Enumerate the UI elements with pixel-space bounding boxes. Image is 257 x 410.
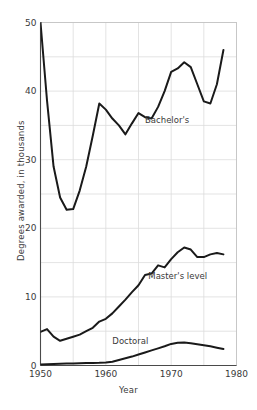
- x-tick-label: 1950: [29, 369, 52, 379]
- degrees-awarded-line-chart: 010203040501950196019701980 Bachelor'sMa…: [0, 0, 257, 410]
- y-tick-label: 30: [25, 155, 37, 165]
- series-lines: [41, 23, 224, 365]
- series-label-bachelor-s: Bachelor's: [145, 115, 190, 125]
- x-tick-label: 1960: [94, 369, 117, 379]
- x-tick-label: 1970: [160, 369, 183, 379]
- tick-labels: 010203040501950196019701980: [25, 18, 248, 379]
- series-label-master-s-level: Master's level: [148, 271, 207, 281]
- y-tick-label: 10: [25, 292, 37, 302]
- chart-canvas: 010203040501950196019701980 Bachelor'sMa…: [0, 0, 257, 410]
- series-label-doctoral: Doctoral: [112, 336, 148, 346]
- gridlines: [41, 23, 237, 366]
- series-line-doctoral: [41, 343, 224, 365]
- x-axis-title: Year: [0, 385, 257, 395]
- y-axis-title: Degrees awarded, in thousands: [16, 121, 26, 261]
- y-tick-label: 40: [25, 86, 37, 96]
- y-tick-label: 50: [25, 18, 37, 28]
- series-line-master-s-level: [41, 248, 224, 341]
- x-tick-label: 1980: [225, 369, 248, 379]
- y-tick-label: 20: [25, 223, 37, 233]
- series-annotations: Bachelor'sMaster's levelDoctoral: [112, 115, 207, 345]
- series-line-bachelor-s: [41, 23, 224, 210]
